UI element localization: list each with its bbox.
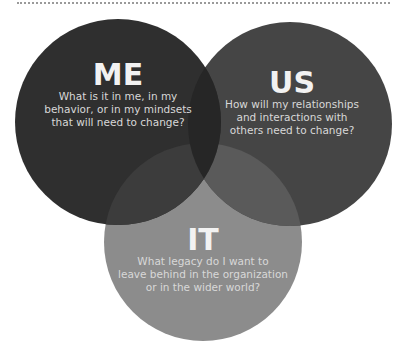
circle-us-question-line-3: others need to change? <box>212 124 372 137</box>
circle-it-label: IT What legacy do I want to leave behind… <box>113 225 293 294</box>
circle-it-question-line-3: or in the wider world? <box>113 281 293 294</box>
circle-us-question-line-2: and interactions with <box>212 111 372 124</box>
circle-it-question-line-2: leave behind in the organization <box>113 268 293 281</box>
venn-diagram <box>0 0 400 358</box>
circle-me-question-line-2: behavior, or in my mindsets <box>38 103 198 116</box>
circle-me-title: ME <box>38 60 198 90</box>
circle-us-question-line-1: How will my relationships <box>212 98 372 111</box>
circle-it-title: IT <box>113 225 293 255</box>
circle-us-label: US How will my relationships and interac… <box>212 68 372 137</box>
circle-me-question-line-1: What is it in me, in my <box>38 90 198 103</box>
circle-it-question-line-1: What legacy do I want to <box>113 255 293 268</box>
circle-me-label: ME What is it in me, in my behavior, or … <box>38 60 198 129</box>
circle-us-title: US <box>212 68 372 98</box>
circle-me-question-line-3: that will need to change? <box>38 116 198 129</box>
